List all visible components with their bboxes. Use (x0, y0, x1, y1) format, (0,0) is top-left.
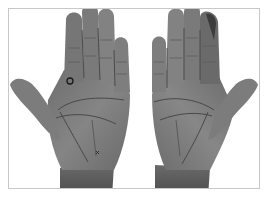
right-hand (152, 5, 258, 198)
left-hand (10, 5, 130, 198)
palms-photo (0, 0, 266, 197)
